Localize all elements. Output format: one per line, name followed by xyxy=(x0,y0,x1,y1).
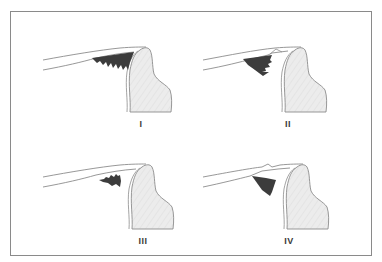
lower-line xyxy=(203,168,290,187)
panel-label-iv: IV xyxy=(277,236,301,246)
tooth-shape xyxy=(286,165,328,229)
deposit-shape xyxy=(252,176,276,196)
panel-iv-drawing xyxy=(0,0,382,262)
panel-iv: IV xyxy=(0,0,382,262)
